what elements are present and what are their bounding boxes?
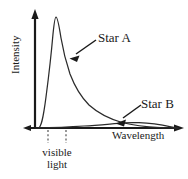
blackbody-spectrum-figure: Intensity Wavelength Star A Star B visib… bbox=[0, 0, 188, 179]
y-axis-arrowhead-icon bbox=[31, 9, 38, 19]
star-a-arrowhead-icon bbox=[70, 56, 80, 63]
visible-light-label: visible light bbox=[33, 147, 81, 170]
star-b-label: Star B bbox=[141, 97, 174, 111]
plot-canvas bbox=[0, 0, 188, 179]
y-axis-title: Intensity bbox=[10, 24, 22, 86]
star-b-leader-line bbox=[123, 105, 141, 118]
x-axis-title: Wavelength bbox=[112, 130, 164, 142]
star-a-leader-line bbox=[76, 40, 96, 54]
visible-light-label-line1: visible bbox=[33, 147, 81, 159]
visible-light-label-line2: light bbox=[33, 159, 81, 171]
star-a-label: Star A bbox=[98, 31, 131, 45]
x-axis-origin-arrowhead-icon bbox=[23, 125, 31, 131]
